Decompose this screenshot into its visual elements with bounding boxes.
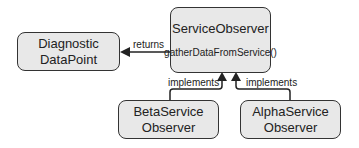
alpha-implements-label: implements xyxy=(246,77,297,89)
returns-arrowhead-icon xyxy=(120,47,130,57)
diagnostic-datapoint-line1: Diagnostic xyxy=(38,36,99,52)
diagnostic-datapoint-line2: DataPoint xyxy=(40,52,97,68)
alpha-implements-arrowhead-icon xyxy=(231,72,241,81)
service-observer-node: ServiceObserver gatherDataFromService() xyxy=(170,7,271,73)
beta-implements-label: implements xyxy=(168,77,219,89)
beta-observer-line1: BetaService xyxy=(133,104,203,120)
beta-service-observer-node: BetaService Observer xyxy=(118,100,219,139)
alpha-service-observer-node: AlphaService Observer xyxy=(240,100,341,139)
returns-label: returns xyxy=(133,39,164,51)
service-observer-title: ServiceObserver xyxy=(172,21,269,37)
alpha-observer-line1: AlphaService xyxy=(252,104,329,120)
alpha-observer-line2: Observer xyxy=(264,120,317,136)
diagnostic-datapoint-node: Diagnostic DataPoint xyxy=(17,32,120,71)
beta-observer-line2: Observer xyxy=(142,120,195,136)
service-observer-method: gatherDataFromService() xyxy=(164,47,277,59)
